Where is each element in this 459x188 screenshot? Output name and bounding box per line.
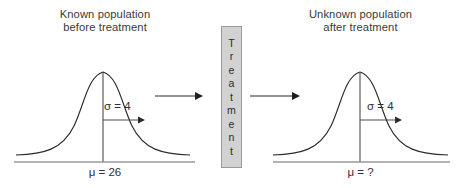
treatment-letter-7: e [229, 118, 235, 132]
treatment-letter-5: t [230, 91, 233, 105]
diagram-canvas: Known population before treatment σ = 4 … [0, 0, 459, 188]
treatment-letter-3: e [229, 64, 235, 78]
right-mu-label: μ = ? [262, 166, 459, 178]
treatment-box: T r e a t m e n t [221, 26, 242, 168]
left-sigma-label: σ = 4 [104, 100, 131, 112]
treatment-letter-9: t [230, 145, 233, 159]
treatment-letter-6: m [227, 104, 236, 118]
arrow-into-treatment-icon [155, 90, 205, 102]
right-distribution-panel: Unknown population after treatment σ = 4… [262, 0, 459, 188]
right-sigma-arrow-head [395, 117, 402, 124]
left-mu-label: μ = 26 [0, 166, 210, 178]
treatment-letter-2: r [230, 50, 234, 64]
treatment-letter-4: a [229, 77, 235, 91]
left-sigma-arrow-head [138, 117, 145, 124]
right-sigma-label: σ = 4 [367, 100, 394, 112]
treatment-letter-8: n [229, 131, 235, 145]
right-bell-curve-plot [262, 0, 459, 188]
treatment-letter-1: T [228, 37, 234, 51]
treatment-label-vertical: T r e a t m e n t [227, 37, 236, 159]
